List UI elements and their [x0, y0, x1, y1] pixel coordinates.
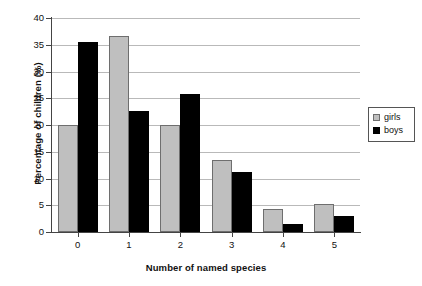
legend-label-boys: boys — [384, 126, 403, 135]
y-axis-tick-label: 15 — [2, 147, 44, 157]
bar-boys-0 — [78, 42, 98, 232]
legend-item-girls: girls — [373, 111, 411, 124]
y-axis-tick-label: 35 — [2, 40, 44, 50]
bar-chart-figure: Percentage of children (%) 0510152025303… — [0, 0, 422, 286]
y-axis-tick-label: 30 — [2, 67, 44, 77]
bar-girls-4 — [263, 209, 283, 232]
x-axis-title: Number of named species — [52, 262, 360, 273]
gridline — [52, 179, 360, 180]
y-axis-tick — [46, 45, 52, 46]
girls-swatch-icon — [373, 114, 380, 121]
gridline — [52, 125, 360, 126]
chart-legend: girls boys — [368, 107, 415, 142]
y-axis-tick-label: 40 — [2, 13, 44, 23]
y-axis-tick — [46, 98, 52, 99]
y-axis-tick — [46, 125, 52, 126]
y-axis-tick — [46, 152, 52, 153]
x-axis-tick — [232, 232, 233, 237]
y-axis-tick-label: 5 — [2, 200, 44, 210]
y-axis-tick-label: 25 — [2, 93, 44, 103]
x-axis-tick — [180, 232, 181, 237]
y-axis-tick-label: 10 — [2, 174, 44, 184]
y-axis-tick-label: 0 — [2, 227, 44, 237]
x-axis-tick — [78, 232, 79, 237]
bar-girls-3 — [212, 160, 232, 232]
gridline — [52, 98, 360, 99]
bar-girls-0 — [58, 125, 78, 232]
bar-boys-4 — [283, 224, 303, 232]
y-axis-tick-labels: 0510152025303540 — [0, 0, 44, 286]
x-axis-tick — [334, 232, 335, 237]
x-axis-tick-label: 5 — [314, 240, 354, 250]
x-axis-tick — [283, 232, 284, 237]
gridline — [52, 152, 360, 153]
bar-girls-5 — [314, 204, 334, 232]
plot-area — [52, 18, 360, 232]
x-axis-tick-label: 3 — [212, 240, 252, 250]
y-axis-tick — [46, 18, 52, 19]
bar-girls-2 — [160, 125, 180, 232]
x-axis-tick-label: 4 — [263, 240, 303, 250]
y-axis-tick — [46, 179, 52, 180]
bar-girls-1 — [109, 36, 129, 232]
y-axis-tick — [46, 72, 52, 73]
x-axis-tick-label: 2 — [160, 240, 200, 250]
y-axis-tick — [46, 205, 52, 206]
legend-label-girls: girls — [384, 113, 401, 122]
bar-boys-2 — [180, 94, 200, 232]
x-axis-tick-label: 1 — [109, 240, 149, 250]
y-axis-tick-label: 20 — [2, 120, 44, 130]
bar-boys-5 — [334, 216, 354, 232]
gridline — [52, 18, 360, 19]
gridline — [52, 45, 360, 46]
x-axis-line — [51, 232, 361, 233]
x-axis-tick-label: 0 — [58, 240, 98, 250]
y-axis-tick — [46, 232, 52, 233]
gridline — [52, 72, 360, 73]
bar-boys-3 — [232, 172, 252, 232]
legend-item-boys: boys — [373, 124, 411, 137]
bar-boys-1 — [129, 111, 149, 232]
x-axis-tick — [129, 232, 130, 237]
boys-swatch-icon — [373, 127, 380, 134]
